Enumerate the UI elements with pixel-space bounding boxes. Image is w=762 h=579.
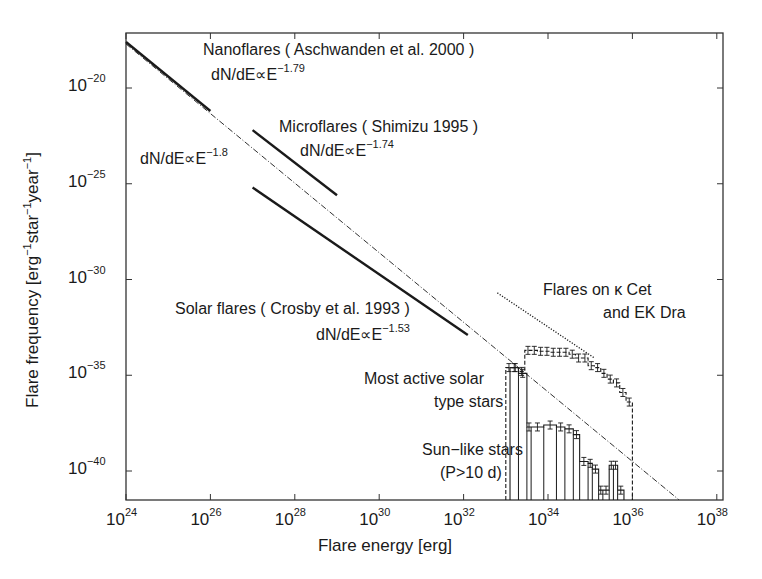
annotation-nanoflares-law: dN/dE∝E−1.79 [211, 64, 305, 84]
axis-ticks [126, 33, 723, 500]
series-flares-on-cet-and-ek-dra [497, 293, 594, 358]
x-tick-label: 1030 [359, 508, 390, 530]
x-tick-label: 1024 [106, 508, 137, 530]
x-tick-label: 1032 [444, 508, 475, 530]
annotation-kcet-line2: and EK Dra [603, 304, 686, 322]
y-tick-label: 10−30 [68, 266, 106, 288]
annotation-reference-law: dN/dE∝E−1.8 [140, 148, 228, 168]
annotation-microflares-law: dN/dE∝E−1.74 [300, 140, 394, 160]
x-axis-title: Flare energy [erg] [318, 536, 452, 556]
x-tick-label: 1034 [528, 508, 559, 530]
plot-frame [126, 33, 723, 500]
y-tick-label: 10−25 [68, 170, 106, 192]
series-nanoflares-aschwanden-et-al-2000 [126, 42, 210, 111]
annotation-most-active-line2: type stars [434, 393, 503, 411]
annotation-solar-flares-law: dN/dE∝E−1.53 [316, 324, 410, 344]
y-tick-label: 10−40 [68, 457, 106, 479]
y-tick-label: 10−35 [68, 361, 106, 383]
x-tick-label: 1026 [190, 508, 221, 530]
x-tick-label: 1036 [612, 508, 643, 530]
annotation-sunlike-line2: (P>10 d) [440, 464, 502, 482]
series-dn-de-e-1-8-reference [126, 44, 679, 500]
series-layer [126, 42, 679, 500]
annotation-nanoflares-title: Nanoflares ( Aschwanden et al. 2000 ) [203, 41, 474, 59]
series-sun-like-stars-p-10-d [510, 364, 624, 500]
x-tick-label: 1038 [697, 508, 728, 530]
annotation-microflares-title: Microflares ( Shimizu 1995 ) [279, 118, 478, 136]
annotation-sunlike-line1: Sun−like stars [422, 441, 523, 459]
y-tick-label: 10−20 [68, 74, 106, 96]
y-axis-title: Flare frequency [erg−1star−1year−1] [21, 152, 43, 408]
annotation-solar-flares-title: Solar flares ( Crosby et al. 1993 ) [175, 300, 410, 318]
annotation-most-active-line1: Most active solar [364, 370, 484, 388]
annotation-kcet-line1: Flares on κ Cet [543, 281, 651, 299]
x-tick-label: 1028 [275, 508, 306, 530]
